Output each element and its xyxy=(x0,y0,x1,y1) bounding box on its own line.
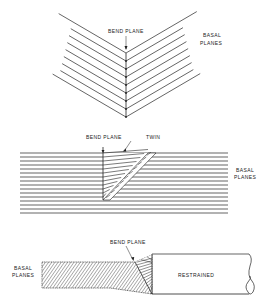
bend-plane-arrow-bottom xyxy=(126,246,134,261)
bend-plane-label-bottom: BEND PLANE xyxy=(110,239,146,245)
bend-plane-label-top: BEND PLANE xyxy=(108,28,144,34)
bend-plane-arrow-top xyxy=(125,36,128,50)
chevron-left-arm xyxy=(62,64,126,101)
restrained-label: RESTRAINED xyxy=(178,272,214,278)
figure-bottom-specimen xyxy=(42,254,254,294)
basal-planes-label-top-1: BASAL xyxy=(203,32,221,38)
chevron-left-arm xyxy=(64,57,126,93)
twin-region xyxy=(103,150,156,201)
bend-plane-label-middle: BEND PLANE xyxy=(86,134,122,140)
chevron-right-arm xyxy=(126,56,190,93)
basal-planes-label-bottom-1: BASAL xyxy=(14,265,32,271)
chevron-right-arm xyxy=(126,74,200,117)
chevron-left-arm xyxy=(66,50,126,85)
chevron-right-arm xyxy=(126,70,193,109)
diagram-canvas: BEND PLANE BASAL PLANES BEND PLANE TWIN … xyxy=(0,0,269,303)
basal-planes-label-middle-2: PLANES xyxy=(234,174,256,180)
chevron-left-arm xyxy=(60,71,126,109)
basal-planes-label-bottom-2: PLANES xyxy=(12,272,34,278)
basal-planes-label-middle-1: BASAL xyxy=(236,167,254,173)
basal-planes-label-top-2: PLANES xyxy=(200,40,222,46)
chevron-right-arm xyxy=(126,42,186,77)
chevron-left-arm xyxy=(69,36,126,69)
chevron-left-arm xyxy=(53,74,126,117)
chevron-right-arm xyxy=(126,49,188,85)
chevron-right-arm xyxy=(126,63,192,101)
twin-label: TWIN xyxy=(146,134,160,140)
twin-arrow xyxy=(123,141,131,152)
bend-plane-arrow-middle xyxy=(102,150,105,153)
